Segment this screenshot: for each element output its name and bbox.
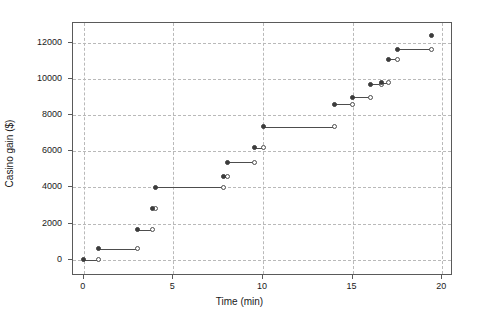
y-axis-tick xyxy=(68,78,72,79)
y-axis-tick-label: 10000 xyxy=(0,73,62,83)
data-point-open-marker xyxy=(429,47,434,52)
data-point-open-marker xyxy=(221,185,226,190)
data-point-open-marker xyxy=(395,57,400,62)
x-axis-tick-label: 20 xyxy=(436,281,446,291)
data-point-final-marker xyxy=(429,33,434,38)
x-axis-label: Time (min) xyxy=(0,296,479,307)
data-point-closed-marker xyxy=(386,57,391,62)
step-segment xyxy=(99,249,138,250)
data-point-closed-marker xyxy=(261,124,266,129)
y-axis-tick xyxy=(68,186,72,187)
chart-figure: 05101520020004000600080001000012000 Time… xyxy=(0,0,479,322)
data-point-closed-marker xyxy=(225,160,230,165)
step-segment xyxy=(263,127,335,128)
step-segment xyxy=(397,49,431,50)
step-segment xyxy=(227,162,254,163)
data-point-closed-marker xyxy=(96,246,101,251)
x-axis-tick-label: 10 xyxy=(257,281,267,291)
data-point-closed-marker xyxy=(150,206,155,211)
y-axis-label: Casino gain ($) xyxy=(4,84,15,224)
step-segment xyxy=(155,187,223,188)
x-axis-tick xyxy=(83,275,84,279)
data-point-open-marker xyxy=(350,102,355,107)
x-axis-tick-label: 0 xyxy=(80,281,85,291)
data-point-closed-marker xyxy=(350,95,355,100)
data-point-open-marker xyxy=(368,95,373,100)
y-axis-tick xyxy=(68,150,72,151)
data-point-closed-marker xyxy=(368,82,373,87)
data-point-closed-marker xyxy=(81,257,86,262)
step-series xyxy=(73,23,451,274)
data-point-open-marker xyxy=(261,145,266,150)
y-axis-tick xyxy=(68,223,72,224)
x-axis-tick xyxy=(352,275,353,279)
y-axis-tick-label: 12000 xyxy=(0,37,62,47)
data-point-closed-marker xyxy=(252,145,257,150)
data-point-closed-marker xyxy=(379,80,384,85)
data-point-open-marker xyxy=(150,227,155,232)
y-axis-tick xyxy=(68,42,72,43)
data-point-open-marker xyxy=(96,257,101,262)
data-point-open-marker xyxy=(332,124,337,129)
data-point-closed-marker xyxy=(395,47,400,52)
x-axis-tick xyxy=(172,275,173,279)
data-point-open-marker xyxy=(135,246,140,251)
y-axis-tick xyxy=(68,259,72,260)
x-axis-tick xyxy=(262,275,263,279)
x-axis-tick xyxy=(441,275,442,279)
data-point-open-marker xyxy=(252,160,257,165)
data-point-closed-marker xyxy=(332,102,337,107)
x-axis-tick-label: 5 xyxy=(170,281,175,291)
data-point-closed-marker xyxy=(135,227,140,232)
y-axis-tick-label: 0 xyxy=(0,254,62,264)
data-point-closed-marker xyxy=(153,185,158,190)
plot-area xyxy=(72,22,452,275)
data-point-open-marker xyxy=(386,80,391,85)
x-axis-tick-label: 15 xyxy=(347,281,357,291)
y-axis-tick xyxy=(68,114,72,115)
